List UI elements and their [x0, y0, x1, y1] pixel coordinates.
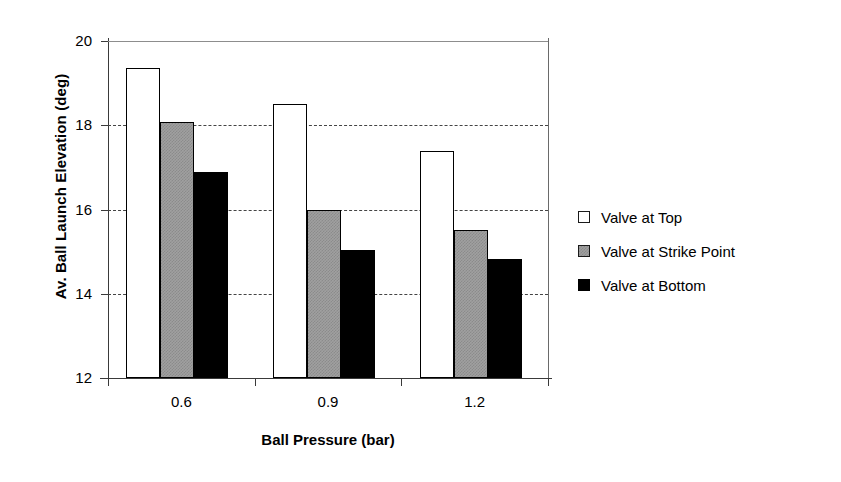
- x-tick: [108, 378, 109, 386]
- legend-swatch-grey-icon: [578, 245, 590, 257]
- bar-0.6-black[interactable]: [194, 172, 228, 378]
- bar-1.2-black[interactable]: [488, 259, 522, 378]
- plot-area: 1214161820 0.60.91.2: [108, 41, 548, 378]
- right-border-line: [548, 38, 549, 381]
- legend-label: Valve at Strike Point: [601, 243, 735, 260]
- x-tick: [255, 378, 256, 386]
- x-tick: [401, 378, 402, 386]
- legend-label: Valve at Top: [601, 209, 682, 226]
- bar-1.2-grey[interactable]: [454, 230, 488, 378]
- legend-item-grey[interactable]: Valve at Strike Point: [578, 234, 828, 268]
- legend-swatch-black-icon: [578, 279, 590, 291]
- chart-legend: Valve at TopValve at Strike PointValve a…: [578, 200, 828, 302]
- x-tick-label-0.9: 0.9: [268, 393, 388, 410]
- gridline-top: [108, 41, 548, 42]
- chart-figure: Av. Ball Launch Elevation (deg) 12141618…: [0, 0, 841, 482]
- y-tick-label: 20: [75, 32, 92, 49]
- legend-item-white[interactable]: Valve at Top: [578, 200, 828, 234]
- legend-label: Valve at Bottom: [601, 277, 706, 294]
- y-tick: 12: [101, 378, 108, 379]
- y-tick-label: 12: [75, 369, 92, 386]
- x-axis-spine: [100, 378, 552, 379]
- x-tick-label-1.2: 1.2: [415, 393, 535, 410]
- y-tick: 20: [101, 41, 108, 42]
- y-tick: 16: [101, 210, 108, 211]
- bar-1.2-white[interactable]: [420, 151, 454, 378]
- x-tick: [548, 378, 549, 386]
- x-tick-label-0.6: 0.6: [121, 393, 241, 410]
- legend-swatch-white-icon: [578, 211, 590, 223]
- legend-item-black[interactable]: Valve at Bottom: [578, 268, 828, 302]
- y-tick: 14: [101, 294, 108, 295]
- y-tick-label: 16: [75, 201, 92, 218]
- bar-0.9-black[interactable]: [341, 250, 375, 378]
- x-axis-title: Ball Pressure (bar): [108, 431, 548, 448]
- y-tick-label: 18: [75, 116, 92, 133]
- bar-0.6-white[interactable]: [126, 68, 160, 378]
- y-tick: 18: [101, 125, 108, 126]
- bar-0.9-white[interactable]: [273, 104, 307, 378]
- y-axis-title: Av. Ball Launch Elevation (deg): [52, 7, 69, 367]
- y-tick-label: 14: [75, 285, 92, 302]
- bar-0.9-grey[interactable]: [307, 210, 341, 379]
- bar-0.6-grey[interactable]: [160, 122, 194, 378]
